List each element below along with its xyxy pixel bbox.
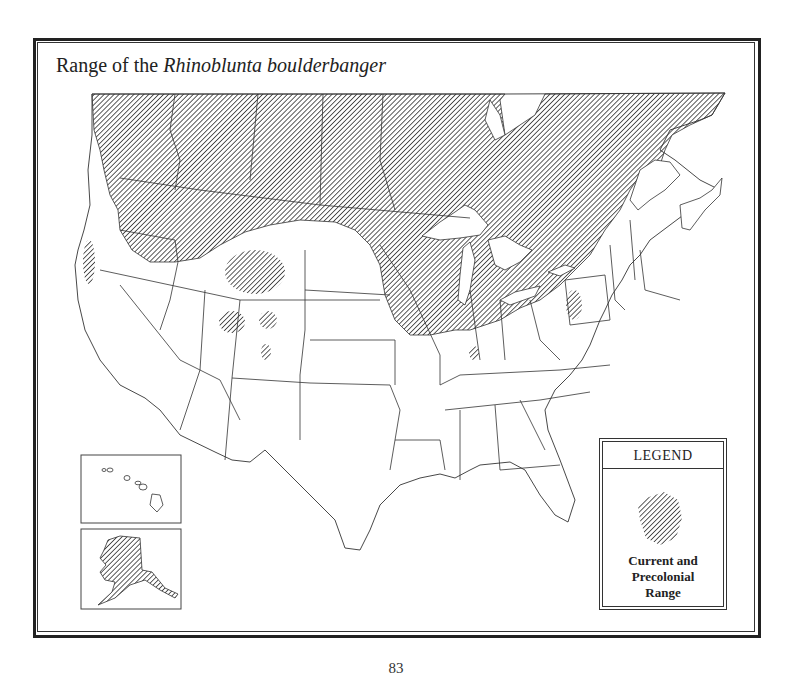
hawaii-inset [81,455,181,523]
legend-label: Current and Precolonial Range [603,553,723,601]
legend-label-line1: Current and [603,553,723,569]
hatch-swatch-icon [636,490,684,546]
legend-heading: LEGEND [603,442,723,469]
page-number: 83 [0,660,792,677]
legend-box: LEGEND Current and Precolonial Range [602,441,724,607]
legend-label-line2: Precolonial [603,569,723,585]
legend-label-line3: Range [603,585,723,601]
